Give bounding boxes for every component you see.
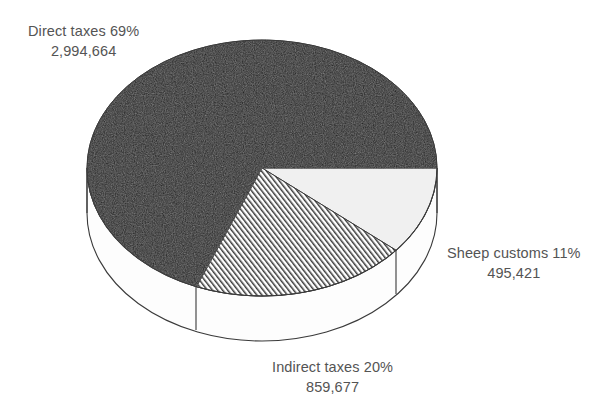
pie-chart-figure: Direct taxes 69% 2,994,664 Sheep customs… [0,0,614,411]
pie-top-face [87,40,437,296]
slice-label-sheep-customs-line1: Sheep customs 11% [447,244,581,264]
slice-label-indirect-taxes-line2: 859,677 [272,378,393,398]
pie-chart-svg [0,0,614,411]
slice-label-direct-taxes-line2: 2,994,664 [28,42,139,62]
slice-label-indirect-taxes-line1: Indirect taxes 20% [272,358,393,378]
slice-label-direct-taxes-line1: Direct taxes 69% [28,22,139,42]
slice-label-indirect-taxes: Indirect taxes 20% 859,677 [272,358,393,397]
slice-label-direct-taxes: Direct taxes 69% 2,994,664 [28,22,139,61]
slice-label-sheep-customs: Sheep customs 11% 495,421 [447,244,581,283]
slice-label-sheep-customs-line2: 495,421 [447,264,581,284]
